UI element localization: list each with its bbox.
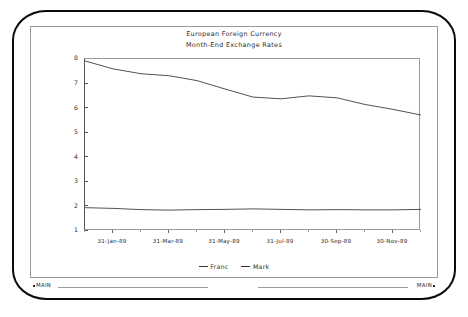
status-bullet-right <box>433 285 435 287</box>
legend-item-mark[interactable]: Mark <box>241 263 269 270</box>
legend-swatch-icon <box>199 266 208 267</box>
y-tick-label: 5 <box>64 128 78 135</box>
y-tick-label: 3 <box>64 177 78 184</box>
series-line-mark <box>85 208 421 210</box>
legend-label: Franc <box>210 263 228 270</box>
status-rule-left <box>58 287 208 288</box>
chart-subtitle: Month-End Exchange Rates <box>30 41 438 49</box>
legend-swatch-icon <box>241 266 250 267</box>
status-label-left: MAIN <box>36 282 51 288</box>
status-bullet-left <box>33 285 35 287</box>
status-rule-right <box>258 287 408 288</box>
legend-item-franc[interactable]: Franc <box>199 263 229 270</box>
x-tick-label: 31-Mar-89 <box>153 238 183 244</box>
y-tick-label: 2 <box>64 202 78 209</box>
x-tick-label: 31-Jul-89 <box>266 238 293 244</box>
y-tick-label: 1 <box>64 226 78 233</box>
plot-svg <box>85 59 421 231</box>
y-tick-label: 8 <box>64 54 78 61</box>
chart-legend: FrancMark <box>30 263 438 270</box>
series-line-franc <box>85 61 421 115</box>
legend-label: Mark <box>253 263 269 270</box>
x-tick-label: 30-Nov-89 <box>377 238 408 244</box>
status-label-right: MAIN <box>417 282 432 288</box>
y-tick-label: 4 <box>64 153 78 160</box>
chart-screen: European Foreign Currency Month-End Exch… <box>0 0 468 317</box>
x-tick-label: 31-Jan-89 <box>97 238 126 244</box>
y-tick-label: 6 <box>64 104 78 111</box>
x-tick-label: 30-Sep-89 <box>321 238 352 244</box>
x-tick-label: 31-May-89 <box>208 238 240 244</box>
plot-area <box>84 58 420 230</box>
y-tick-label: 7 <box>64 79 78 86</box>
status-bar: MAIN MAIN <box>30 282 438 292</box>
chart-title: European Foreign Currency <box>30 30 438 38</box>
